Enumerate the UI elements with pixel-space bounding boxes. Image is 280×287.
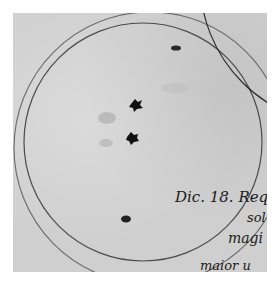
faint-smudge [98, 112, 116, 124]
annotation-line-3: magi [228, 230, 263, 246]
sunspot-icon [126, 132, 139, 145]
annotation-line-2: sol [247, 210, 266, 225]
top-right-arc [200, 0, 280, 125]
solar-disk-circle [24, 23, 262, 261]
annotation-line-1: Dic. 18. Req [174, 188, 268, 206]
sunspot-icon [121, 216, 131, 223]
faint-smudge [99, 139, 113, 147]
sunspot-icon [171, 45, 181, 50]
sunspot-drawing: Dic. 18. Req sol magi maior u [0, 0, 280, 287]
faint-smudge [161, 83, 189, 93]
sunspot-icon [129, 99, 143, 112]
annotation-line-4: maior u [200, 258, 251, 273]
